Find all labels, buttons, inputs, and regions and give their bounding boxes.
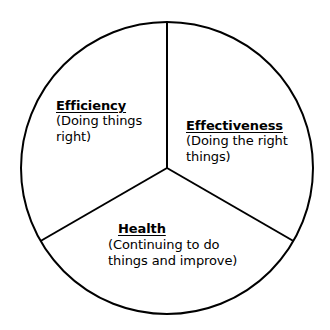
sector-heading-effectiveness: Effectiveness <box>186 118 306 133</box>
sector-label-efficiency: Efficiency (Doing things right) <box>56 98 166 145</box>
sector-label-health: Health (Continuing to do things and impr… <box>108 218 260 269</box>
sector-heading-health: Health <box>118 221 166 236</box>
three-sector-circle-diagram: Efficiency (Doing things right) Effectiv… <box>0 0 330 330</box>
sector-description-health: (Continuing to do things and improve) <box>108 237 260 269</box>
sector-description-effectiveness: (Doing the right things) <box>186 133 306 165</box>
circle-diagram-graphic <box>0 0 330 330</box>
sector-heading-efficiency: Efficiency <box>56 98 166 113</box>
sector-label-effectiveness: Effectiveness (Doing the right things) <box>186 118 306 165</box>
sector-description-efficiency: (Doing things right) <box>56 113 166 145</box>
